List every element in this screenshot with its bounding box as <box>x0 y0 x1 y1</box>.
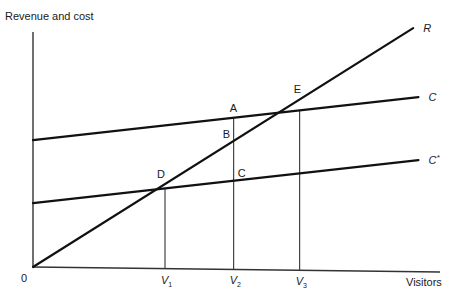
y-axis-label: Revenue and cost <box>5 10 94 22</box>
x-axis-label: Visitors <box>406 276 442 288</box>
x-tick-label-v3: V3 <box>296 275 307 289</box>
point-label-a: A <box>230 102 238 114</box>
x-tick-labels: V1V2V3 <box>161 274 307 290</box>
series-lines <box>33 28 418 267</box>
series-label-cstar: C* <box>428 153 440 166</box>
series-label-c: C <box>428 91 436 103</box>
point-labels: DABCE <box>157 83 301 180</box>
origin-label: 0 <box>21 272 27 284</box>
break-even-diagram: Revenue and cost Visitors 0 RCC* DABCE V… <box>0 0 462 302</box>
point-label-d: D <box>157 168 165 180</box>
vertical-lines <box>165 110 300 270</box>
point-label-c: C <box>238 167 246 179</box>
x-tick-label-v1: V1 <box>161 274 172 288</box>
series-line-cstar <box>33 160 418 203</box>
series-line-r <box>33 28 413 267</box>
point-label-b: B <box>223 128 230 140</box>
series-label-r: R <box>423 22 431 34</box>
x-tick-label-v2: V2 <box>230 274 241 288</box>
x-axis <box>33 267 440 272</box>
axes <box>33 32 440 272</box>
series-labels: RCC* <box>423 22 440 166</box>
point-label-e: E <box>294 83 301 95</box>
